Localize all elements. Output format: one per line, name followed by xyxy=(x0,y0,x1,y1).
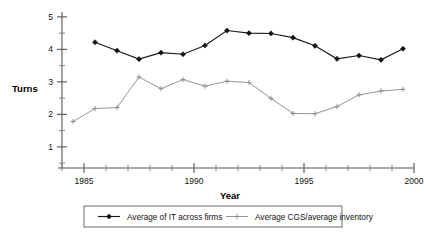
x-axis-tick-labels: 1985199019952000 xyxy=(75,176,424,186)
y-axis-title: Turns xyxy=(12,83,38,94)
x-tick-label: 1985 xyxy=(75,176,94,186)
y-axis-tick-labels: 12345 xyxy=(48,12,53,152)
y-tick-label: 1 xyxy=(48,142,53,152)
y-tick-label: 2 xyxy=(48,109,53,119)
data-point-marker xyxy=(356,53,361,58)
x-axis-group: 1985199019952000 xyxy=(58,163,424,186)
line-chart-canvas: 12345 1985199019952000 Turns Year Averag… xyxy=(0,0,424,243)
legend-label: Average CGS/average inventory xyxy=(255,213,374,222)
data-point-marker xyxy=(136,57,141,62)
data-point-marker xyxy=(378,57,383,62)
x-tick-label: 1990 xyxy=(185,176,204,186)
data-point-marker xyxy=(114,48,119,53)
data-point-marker xyxy=(158,50,163,55)
y-tick-label: 5 xyxy=(48,12,53,22)
legend-label: Average of IT across firms xyxy=(127,213,222,222)
data-point-marker xyxy=(400,46,405,51)
series-layer xyxy=(70,28,405,124)
data-point-marker xyxy=(92,40,97,45)
series-line xyxy=(73,77,403,122)
series-2 xyxy=(70,74,405,124)
x-tick-label: 2000 xyxy=(405,176,424,186)
series-1 xyxy=(92,28,405,62)
y-tick-label: 3 xyxy=(48,77,53,87)
chart-figure: 12345 1985199019952000 Turns Year Averag… xyxy=(0,0,424,243)
x-axis-title: Year xyxy=(220,190,240,201)
data-point-marker xyxy=(180,52,185,57)
data-point-marker xyxy=(268,31,273,36)
y-axis-group: 12345 xyxy=(48,12,67,168)
data-point-marker xyxy=(246,31,251,36)
data-point-marker xyxy=(334,56,339,61)
y-tick-label: 4 xyxy=(48,44,53,54)
chart-legend: Average of IT across firmsAverage CGS/av… xyxy=(84,206,374,227)
data-point-marker xyxy=(312,43,317,48)
data-point-marker xyxy=(290,35,295,40)
x-tick-label: 1995 xyxy=(295,176,314,186)
